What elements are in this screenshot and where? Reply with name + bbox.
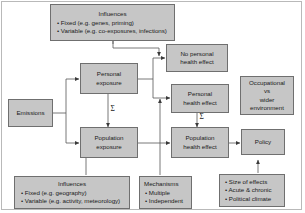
wire-emissions-to-personal bbox=[66, 79, 79, 113]
mechanisms-bullet-1: • Multiple bbox=[143, 189, 188, 197]
mechanisms-heading: Mechanisms bbox=[143, 180, 188, 188]
influences-bottom-heading: Influences bbox=[19, 180, 125, 188]
personal-exposure-line-2: exposure bbox=[96, 79, 121, 87]
personal-exposure-line-1: Personal bbox=[97, 70, 121, 78]
node-population-health-effect[interactable]: Population health effect bbox=[171, 127, 229, 158]
node-emissions[interactable]: Emissions bbox=[8, 99, 53, 127]
wire-bus-to-personal-effect bbox=[153, 79, 170, 98]
occupational-line-1: Occupational bbox=[249, 79, 285, 87]
influences-bottom-bullet-1: • Fixed (e.g. geography) bbox=[19, 189, 125, 197]
node-personal-health-effect[interactable]: Personal health effect bbox=[171, 84, 229, 113]
node-policy[interactable]: Policy bbox=[241, 129, 285, 155]
diagram-canvas: Influences • Fixed (e.g. genes, priming)… bbox=[0, 0, 305, 213]
population-health-effect-line-2: health effect bbox=[183, 143, 216, 151]
node-influences-top[interactable]: Influences • Fixed (e.g. genes, priming)… bbox=[50, 4, 175, 41]
occupational-line-2: vs bbox=[264, 87, 270, 95]
influences-top-bullet-1: • Fixed (e.g. genes, priming) bbox=[55, 19, 170, 27]
emissions-label: Emissions bbox=[16, 109, 44, 117]
no-personal-health-effect-line-1: No personal bbox=[180, 50, 213, 58]
policy-label: Policy bbox=[255, 138, 271, 146]
mechanisms-bullet-2: • Independent bbox=[143, 197, 188, 205]
node-occupational-vs-wider-environment[interactable]: Occupational vs wider environment bbox=[240, 76, 294, 115]
no-personal-health-effect-line-2: health effect bbox=[180, 58, 213, 66]
population-health-effect-line-1: Population bbox=[185, 134, 214, 142]
influences-bottom-bullet-2: • Variable (e.g. activity, meteorology) bbox=[19, 197, 125, 205]
wire-emissions-to-population bbox=[66, 113, 79, 143]
occupational-line-4: environment bbox=[250, 104, 284, 112]
wire-bus-to-no-effect bbox=[153, 58, 165, 79]
node-policy-factors[interactable]: • Size of effects • Acute & chronic • Po… bbox=[219, 174, 285, 207]
sigma-health-effect-label: Σ bbox=[199, 113, 204, 121]
sigma-exposure-label: Σ bbox=[110, 105, 115, 113]
policy-factors-bullet-3: • Political climate bbox=[223, 195, 281, 203]
policy-factors-bullet-1: • Size of effects bbox=[223, 178, 281, 186]
personal-health-effect-line-2: health effect bbox=[183, 99, 216, 107]
node-mechanisms[interactable]: Mechanisms • Multiple • Independent bbox=[139, 176, 192, 209]
personal-health-effect-line-1: Personal bbox=[188, 90, 212, 98]
population-exposure-line-2: exposure bbox=[96, 143, 121, 151]
wire-influences-top bbox=[113, 41, 159, 56]
influences-top-heading: Influences bbox=[55, 10, 170, 18]
occupational-line-3: wider bbox=[260, 96, 275, 104]
node-population-exposure[interactable]: Population exposure bbox=[80, 127, 138, 158]
population-exposure-line-1: Population bbox=[94, 134, 123, 142]
node-influences-bottom[interactable]: Influences • Fixed (e.g. geography) • Va… bbox=[14, 176, 130, 209]
influences-top-bullet-2: • Variable (e.g. co-exposures, infection… bbox=[55, 27, 170, 35]
node-personal-exposure[interactable]: Personal exposure bbox=[80, 63, 138, 94]
node-no-personal-health-effect[interactable]: No personal health effect bbox=[166, 44, 228, 72]
policy-factors-bullet-2: • Acute & chronic bbox=[223, 186, 281, 194]
